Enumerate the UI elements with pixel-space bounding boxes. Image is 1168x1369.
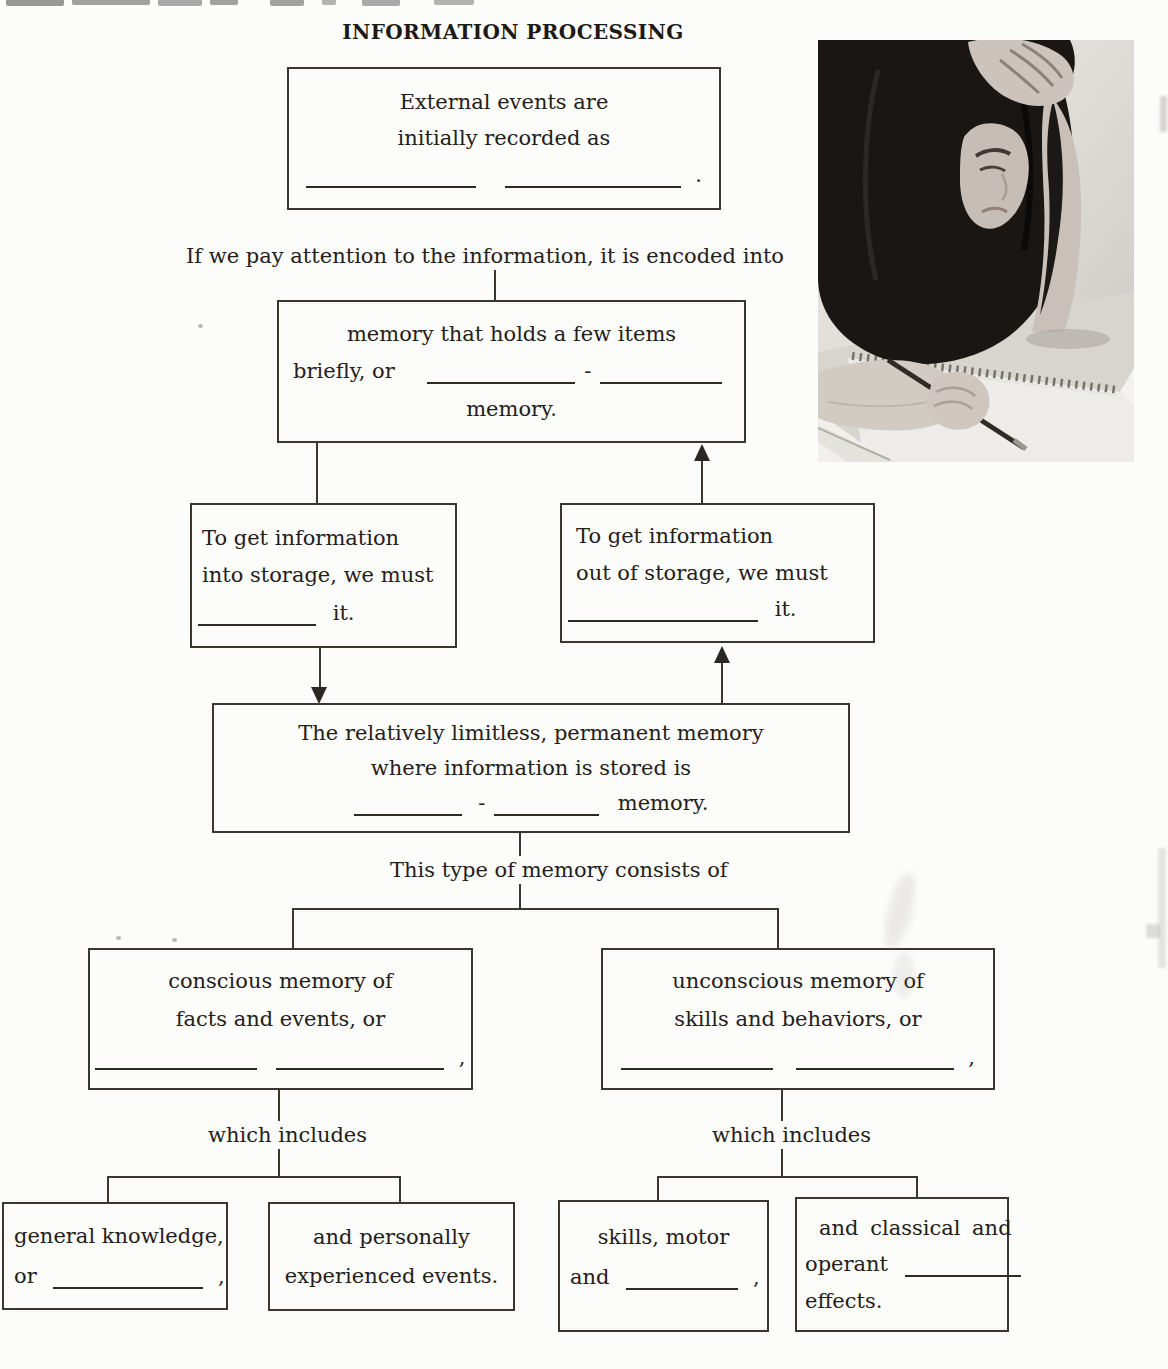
- arrowhead-up-icon: [694, 444, 710, 461]
- branch-line: [292, 908, 779, 910]
- scan-speck: [116, 936, 121, 940]
- box-text-line: conscious memory of: [90, 968, 471, 994]
- short-term-memory-box: memory that holds a few items briefly, o…: [277, 300, 746, 443]
- fill-in-blank: [53, 1287, 203, 1289]
- comma: ,: [218, 1264, 225, 1288]
- arrow-line: [721, 660, 723, 703]
- box-text-fragment: or: [14, 1264, 37, 1288]
- comma: ,: [753, 1265, 760, 1289]
- page-edge-artifact: [1160, 96, 1167, 132]
- box-text-line: The relatively limitless, permanent memo…: [214, 720, 848, 746]
- box-text-line: where information is stored is: [214, 755, 848, 781]
- procedural-memory-box: skills, motor and ,: [558, 1200, 769, 1332]
- fill-in-row: it.: [198, 600, 455, 626]
- box-text-line: To get information: [202, 525, 455, 551]
- box-text-fragment: it.: [775, 597, 797, 621]
- fill-in-blank: [621, 1068, 773, 1070]
- page-edge-artifact: [1158, 848, 1166, 968]
- fill-in-row: - memory.: [214, 790, 848, 816]
- fill-in-blank: [600, 382, 722, 384]
- fill-in-blank: [494, 814, 599, 816]
- box-text-line: and personally: [270, 1224, 513, 1250]
- branch-line: [657, 1176, 918, 1178]
- fill-in-blank: [354, 814, 462, 816]
- fill-in-row: or ,: [14, 1263, 226, 1289]
- fill-in-row: ,: [90, 1044, 471, 1070]
- box-text-line: general knowledge,: [14, 1223, 226, 1249]
- fill-in-blank: [505, 186, 681, 188]
- page-title: INFORMATION PROCESSING: [298, 20, 728, 44]
- fill-in-blank: [276, 1068, 444, 1070]
- fill-in-blank: [95, 1068, 257, 1070]
- box-text-line: skills and behaviors, or: [603, 1006, 993, 1032]
- box-text-line: out of storage, we must: [576, 560, 873, 586]
- fill-in-blank: [796, 1068, 954, 1070]
- branch-line: [777, 908, 779, 948]
- branch-line: [107, 1176, 401, 1178]
- fill-in-row: and ,: [560, 1264, 767, 1290]
- arrowhead-up-icon: [714, 646, 730, 663]
- scan-speck: [198, 324, 203, 328]
- fill-in-blank: [626, 1288, 738, 1290]
- fill-in-row: briefly, or -: [279, 358, 744, 384]
- which-includes-left-label: which includes: [208, 1121, 348, 1149]
- fill-in-blank: [427, 382, 575, 384]
- retrieve-box: To get information out of storage, we mu…: [560, 503, 875, 643]
- connector-line: [316, 443, 318, 503]
- which-includes-right-label: which includes: [712, 1121, 852, 1149]
- student-studying-photo: [818, 40, 1134, 462]
- page-edge-artifact: [1146, 924, 1160, 938]
- branch-line: [657, 1176, 659, 1201]
- comma: ,: [459, 1045, 466, 1069]
- arrow-line: [701, 456, 703, 503]
- implicit-memory-box: unconscious memory of skills and behavio…: [601, 948, 995, 1090]
- box-text-line: To get information: [576, 523, 873, 549]
- attention-sentence: If we pay attention to the information, …: [182, 242, 788, 270]
- box-text-fragment: it.: [333, 601, 355, 625]
- clipped-heading-remnant: [6, 0, 486, 7]
- scan-smudge: [879, 870, 921, 951]
- arrow-line: [319, 648, 321, 690]
- episodic-memory-box: and personally experienced events.: [268, 1202, 515, 1311]
- explicit-memory-box: conscious memory of facts and events, or…: [88, 948, 473, 1090]
- conditioning-box: and classical and operant effects.: [795, 1197, 1009, 1332]
- box-text-fragment: and: [570, 1265, 610, 1289]
- hyphen: -: [584, 359, 591, 383]
- box-text-fragment: operant: [805, 1252, 888, 1276]
- hyphen: -: [478, 791, 485, 815]
- box-text-line: and classical and: [797, 1215, 1007, 1241]
- long-term-memory-box: The relatively limitless, permanent memo…: [212, 703, 850, 833]
- consists-label: This type of memory consists of: [390, 856, 690, 884]
- encode-box: To get information into storage, we must…: [190, 503, 457, 648]
- box-text-line: memory that holds a few items: [279, 321, 744, 347]
- fill-in-row: .: [289, 162, 719, 188]
- period: .: [695, 163, 702, 187]
- fill-in-row: operant: [797, 1251, 1007, 1277]
- student-photo-illustration: [818, 40, 1134, 462]
- box-text-line: unconscious memory of: [603, 968, 993, 994]
- box-text-line: into storage, we must: [202, 562, 455, 588]
- box-text-fragment: briefly, or: [293, 359, 395, 383]
- fill-in-blank: [306, 186, 476, 188]
- box-text-line: effects.: [797, 1288, 1007, 1314]
- fill-in-blank: [568, 620, 758, 622]
- scan-smudge: [893, 952, 915, 998]
- fill-in-row: ,: [603, 1044, 993, 1070]
- box-text-line: External events are: [289, 89, 719, 115]
- semantic-memory-box: general knowledge, or ,: [2, 1202, 228, 1310]
- box-text-line: experienced events.: [270, 1263, 513, 1289]
- fill-in-blank: [905, 1275, 1021, 1277]
- sensory-memory-box: External events are initially recorded a…: [287, 67, 721, 210]
- branch-line: [916, 1176, 918, 1198]
- fill-in-blank: [198, 624, 316, 626]
- arrowhead-down-icon: [311, 687, 327, 704]
- branch-line: [292, 908, 294, 948]
- scan-speck: [172, 938, 177, 942]
- box-text-line: initially recorded as: [289, 125, 719, 151]
- comma: ,: [968, 1045, 975, 1069]
- box-text-line: skills, motor: [560, 1224, 767, 1250]
- branch-line: [399, 1176, 401, 1203]
- branch-line: [107, 1176, 109, 1203]
- fill-in-row: it.: [568, 596, 873, 622]
- worksheet-page: INFORMATION PROCESSING: [0, 0, 1168, 1369]
